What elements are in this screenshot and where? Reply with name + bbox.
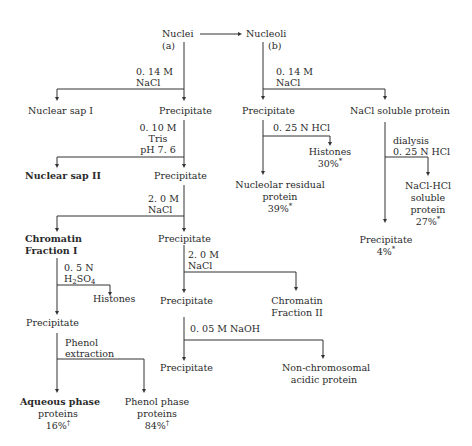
node-nucleolar-residual-pct: 39%* <box>234 203 326 215</box>
node-precipitate-a4: Precipitate <box>160 295 213 307</box>
node-histones-a: Histones <box>93 293 135 305</box>
node-histones-b-pct: 30%* <box>300 158 360 170</box>
node-nuclear-sap-1: Nuclear sap I <box>28 105 93 117</box>
node-precipitate-b2: Precipitate <box>356 234 416 246</box>
reagent-nacl-20-2: NaCl <box>148 204 172 216</box>
node-non-chromosomal-line2: acidic protein <box>282 374 366 386</box>
node-nacl-hcl-line3: protein <box>398 204 458 216</box>
node-nacl-soluble-protein: NaCl soluble protein <box>350 105 450 117</box>
reagent-phenol-2: extraction <box>65 348 114 360</box>
node-precipitate-a1: Precipitate <box>159 105 212 117</box>
node-phenol-line2: proteins <box>124 408 190 420</box>
node-precipitate-cf1: Precipitate <box>26 317 79 329</box>
node-precipitate-a5: Precipitate <box>160 362 213 374</box>
node-phenol-line1: Phenol phase <box>124 396 190 408</box>
node-nucleoli-tag: (b) <box>268 40 282 52</box>
node-nuclear-sap-2: Nuclear sap II <box>25 170 101 182</box>
reagent-nacl-014-b-2: NaCl <box>276 77 300 89</box>
reagent-nacl-20b-2: NaCl <box>188 260 212 272</box>
node-precipitate-b: Precipitate <box>242 105 295 117</box>
node-nucleoli: Nucleoli <box>246 28 286 40</box>
reagent-dialysis-2: 0. 25 N HCl <box>393 146 450 158</box>
node-aqueous-line1: Aqueous phase <box>20 396 96 408</box>
node-chromatin-fraction-1-line2: Fraction I <box>25 245 78 257</box>
reagent-tris-3: pH 7. 6 <box>136 144 180 156</box>
node-precipitate-a3: Precipitate <box>158 233 211 245</box>
node-nuclei: Nuclei <box>162 28 193 40</box>
reagent-h2so4-2: H2SO4 <box>64 273 96 285</box>
node-chromatin-fraction-1-line1: Chromatin <box>25 233 82 245</box>
node-nucleolar-residual-line1: Nucleolar residual <box>234 179 326 191</box>
reagent-nacl-014-a-2: NaCl <box>136 77 160 89</box>
node-aqueous-line2: proteins <box>20 408 96 420</box>
node-nucleolar-residual-line2: protein <box>234 191 326 203</box>
node-aqueous-pct: 16%† <box>20 420 96 432</box>
node-chromatin-fraction-2-line2: Fraction II <box>266 307 328 319</box>
node-nacl-hcl-line1: NaCl-HCl <box>398 180 458 192</box>
node-nacl-hcl-line2: soluble <box>398 192 458 204</box>
reagent-naoh: 0. 05 M NaOH <box>190 323 260 335</box>
node-histones-b: Histones <box>300 146 360 158</box>
node-precipitate-a2: Precipitate <box>154 170 207 182</box>
node-phenol-pct: 84%† <box>124 420 190 432</box>
node-nuclei-tag: (a) <box>162 40 175 52</box>
node-nacl-hcl-pct: 27%* <box>398 216 458 228</box>
node-chromatin-fraction-2-line1: Chromatin <box>266 295 328 307</box>
node-precipitate-b2-pct: 4%* <box>356 246 416 258</box>
reagent-hcl-b: 0. 25 N HCl <box>273 122 330 134</box>
node-non-chromosomal-line1: Non-chromosomal <box>282 362 366 374</box>
